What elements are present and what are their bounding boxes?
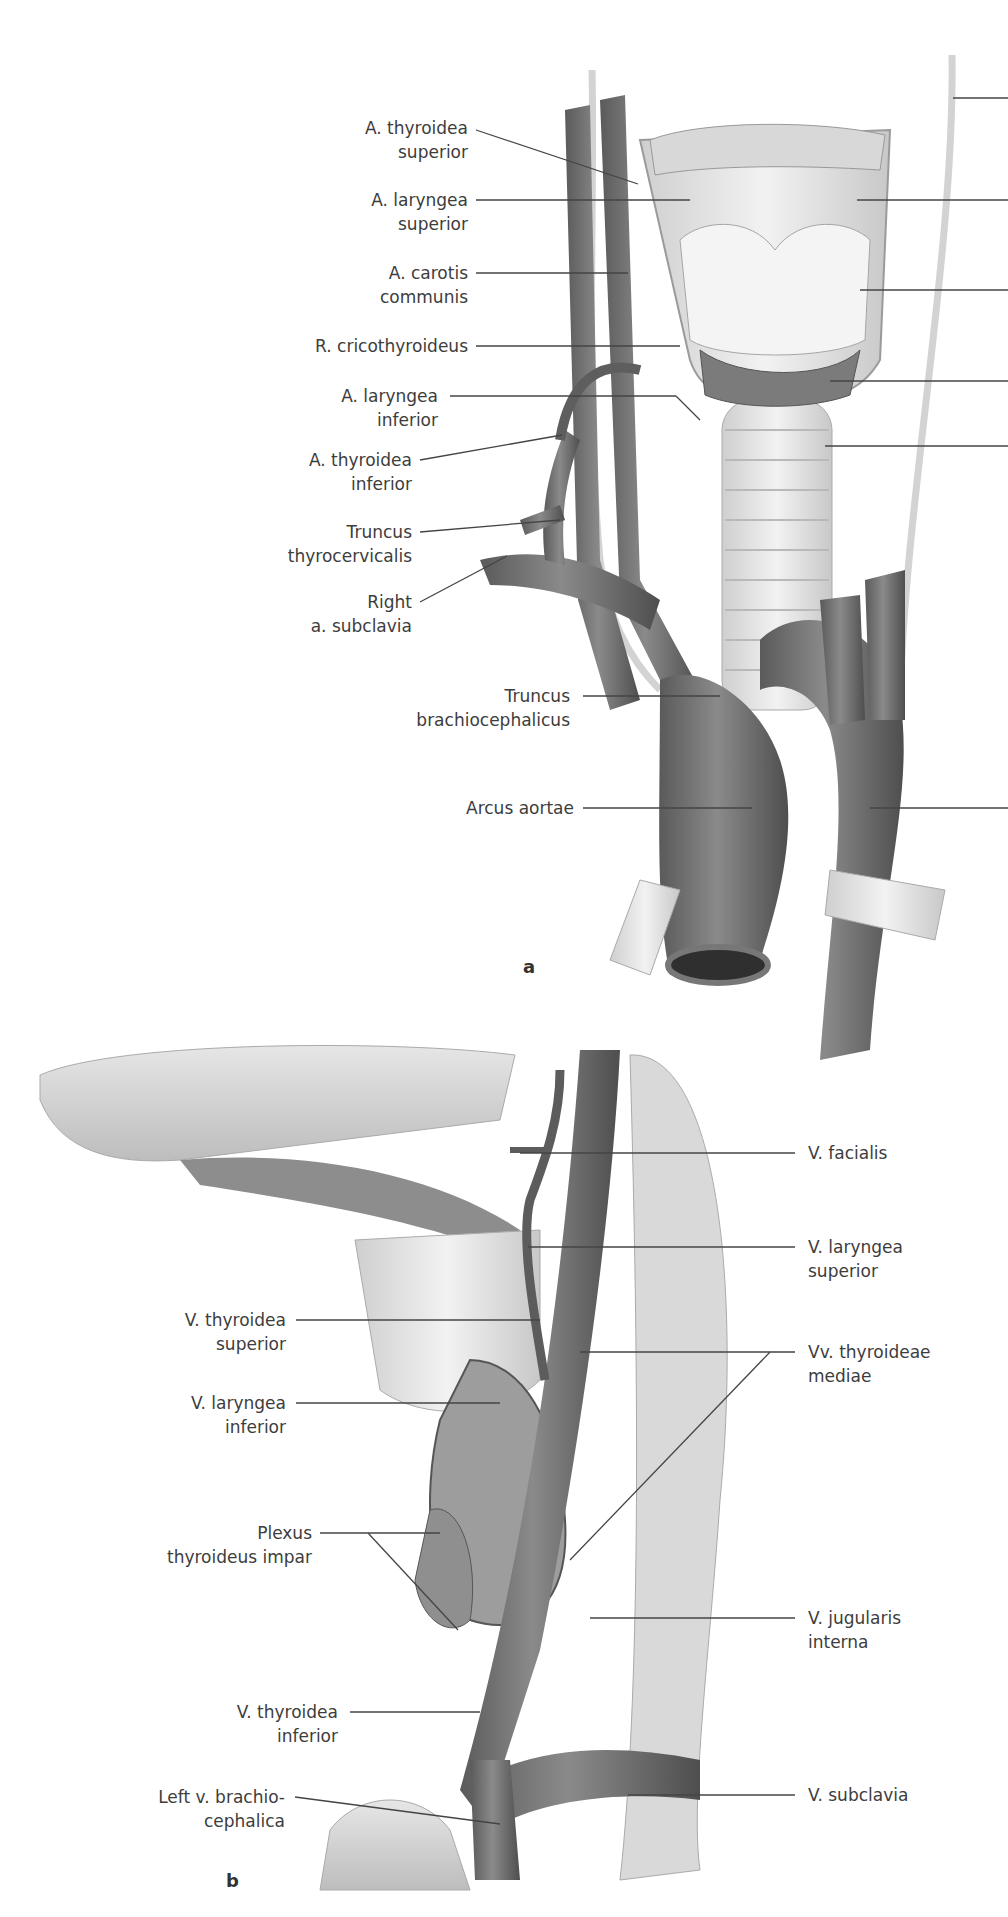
panel-letter-b: b [226,1870,239,1891]
label-v-thyroidea-superior: V. thyroidea superior [185,1308,286,1356]
label-line: mediae [808,1364,931,1388]
label-line: A. thyroidea [365,116,468,140]
label-line: a. subclavia [311,614,412,638]
label-a-laryngea-inferior: A. laryngea inferior [341,384,438,432]
label-vv-thyroideae-mediae: Vv. thyroideae mediae [808,1340,931,1388]
label-line: V. facialis [808,1141,887,1165]
label-truncus-brachiocephalicus: Truncus brachiocephalicus [416,684,570,732]
label-line: V. thyroidea [237,1700,338,1724]
label-line: V. thyroidea [185,1308,286,1332]
label-line: Right [311,590,412,614]
label-truncus-thyrocervicalis: Truncus thyrocervicalis [288,520,412,568]
label-plexus-thyroideus-impar: Plexus thyroideus impar [167,1521,312,1569]
panel-letter-a: a [523,956,535,977]
figure-b-art [40,1045,727,1890]
label-line: V. laryngea [808,1235,903,1259]
label-line: Truncus [416,684,570,708]
label-left-v-brachiocephalica: Left v. brachio- cephalica [158,1785,285,1833]
label-line: superior [371,212,468,236]
label-line: inferior [191,1415,286,1439]
label-line: communis [380,285,468,309]
label-v-laryngea-superior: V. laryngea superior [808,1235,903,1283]
label-line: inferior [309,472,412,496]
label-line: inferior [237,1724,338,1748]
label-r-cricothyroideus: R. cricothyroideus [315,334,468,358]
label-v-subclavia: V. subclavia [808,1783,908,1807]
label-line: Truncus [288,520,412,544]
label-a-laryngea-superior: A. laryngea superior [371,188,468,236]
label-a-thyroidea-inferior: A. thyroidea inferior [309,448,412,496]
label-line: R. cricothyroideus [315,334,468,358]
label-line: Left v. brachio- [158,1785,285,1809]
label-right-a-subclavia: Right a. subclavia [311,590,412,638]
label-v-thyroidea-inferior: V. thyroidea inferior [237,1700,338,1748]
label-line: inferior [341,408,438,432]
label-line: superior [185,1332,286,1356]
label-v-laryngea-inferior: V. laryngea inferior [191,1391,286,1439]
label-line: superior [365,140,468,164]
label-a-carotis-communis: A. carotis communis [380,261,468,309]
label-line: thyroideus impar [167,1545,312,1569]
label-line: V. jugularis [808,1606,901,1630]
label-v-facialis: V. facialis [808,1141,887,1165]
label-line: A. laryngea [371,188,468,212]
label-line: cephalica [158,1809,285,1833]
figure-a-art [480,55,952,1060]
label-line: V. subclavia [808,1783,908,1807]
label-line: A. laryngea [341,384,438,408]
label-v-jugularis-interna: V. jugularis interna [808,1606,901,1654]
label-line: Vv. thyroideae [808,1340,931,1364]
label-line: Plexus [167,1521,312,1545]
label-line: brachiocephalicus [416,708,570,732]
label-arcus-aortae: Arcus aortae [466,796,574,820]
label-line: Arcus aortae [466,796,574,820]
label-line: interna [808,1630,901,1654]
label-line: superior [808,1259,903,1283]
label-line: A. carotis [380,261,468,285]
label-line: thyrocervicalis [288,544,412,568]
label-a-thyroidea-superior: A. thyroidea superior [365,116,468,164]
label-line: A. thyroidea [309,448,412,472]
label-line: V. laryngea [191,1391,286,1415]
